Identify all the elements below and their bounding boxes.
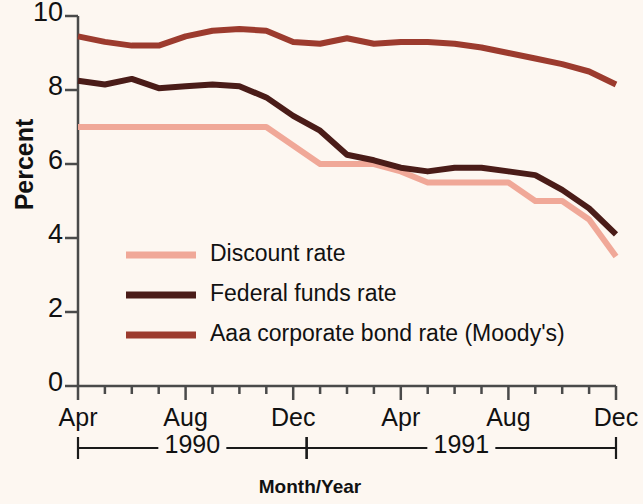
y-axis-tick-label: 6: [3, 145, 63, 176]
y-axis-ticks: [65, 16, 78, 386]
data-series-lines: [78, 29, 616, 257]
x-axis-ticks: [78, 386, 616, 400]
legend-entry-label: Aaa corporate bond rate (Moody's): [210, 320, 565, 347]
y-axis-tick-label: 8: [3, 71, 63, 102]
y-axis-tick-label: 2: [3, 293, 63, 324]
year-label: 1990: [147, 430, 237, 459]
year-label: 1991: [416, 430, 506, 459]
y-axis-tick-label: 10: [3, 0, 63, 28]
x-axis-tick-label: Dec: [248, 403, 338, 432]
y-axis-tick-label: 4: [3, 219, 63, 250]
x-axis-tick-label: Apr: [33, 403, 123, 432]
legend-swatches: [126, 255, 196, 335]
y-axis-tick-label: 0: [3, 367, 63, 398]
x-axis-title: Month/Year: [0, 476, 620, 498]
x-axis-tick-label: Apr: [356, 403, 446, 432]
x-axis-tick-label: Aug: [463, 403, 553, 432]
x-axis-tick-label: Dec: [571, 403, 643, 432]
x-axis-tick-label: Aug: [141, 403, 231, 432]
legend-entry-label: Federal funds rate: [210, 280, 397, 307]
legend-entry-label: Discount rate: [210, 240, 346, 267]
